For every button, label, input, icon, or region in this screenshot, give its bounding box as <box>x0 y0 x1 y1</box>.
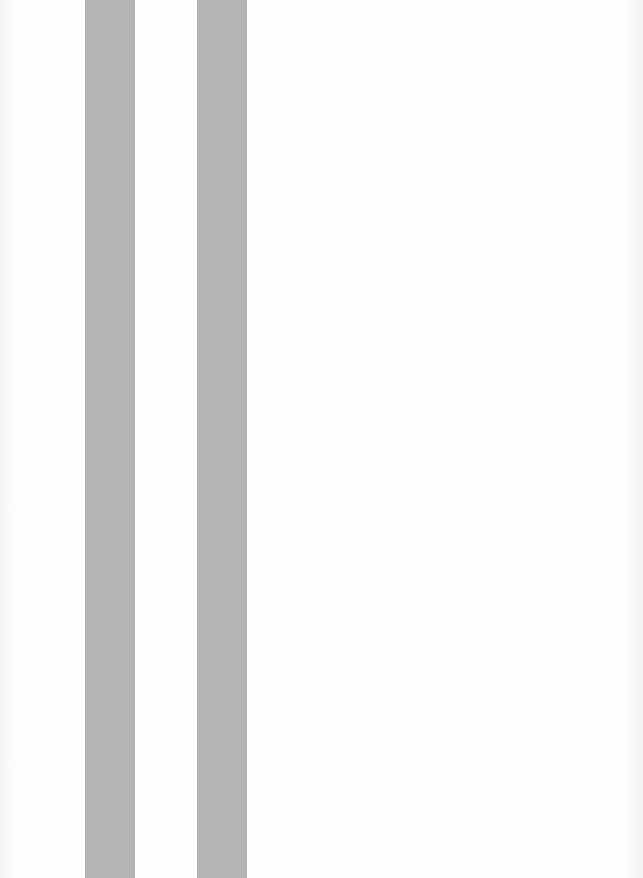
vertical-stripe-left <box>85 0 135 878</box>
blank-page <box>0 0 643 878</box>
vertical-stripe-right <box>197 0 247 878</box>
